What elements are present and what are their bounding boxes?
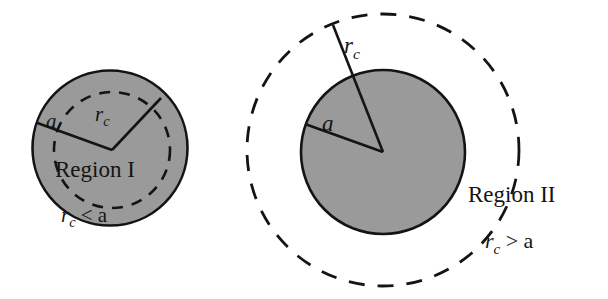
- region-diagram-svg: a rc Region I rc < a: [0, 0, 608, 299]
- right-label-region: Region II: [468, 182, 556, 207]
- panel-right: rc a Region II rc > a: [247, 14, 556, 286]
- left-label-condition: rc < a: [61, 203, 108, 230]
- right-label-condition: rc > a: [485, 228, 534, 257]
- figure-container: a rc Region I rc < a: [0, 0, 608, 299]
- right-label-rc: rc: [344, 33, 360, 62]
- right-label-a: a: [322, 111, 334, 136]
- left-label-region: Region I: [55, 157, 135, 182]
- left-label-a: a: [46, 109, 57, 133]
- panel-left: a rc Region I rc < a: [33, 71, 188, 231]
